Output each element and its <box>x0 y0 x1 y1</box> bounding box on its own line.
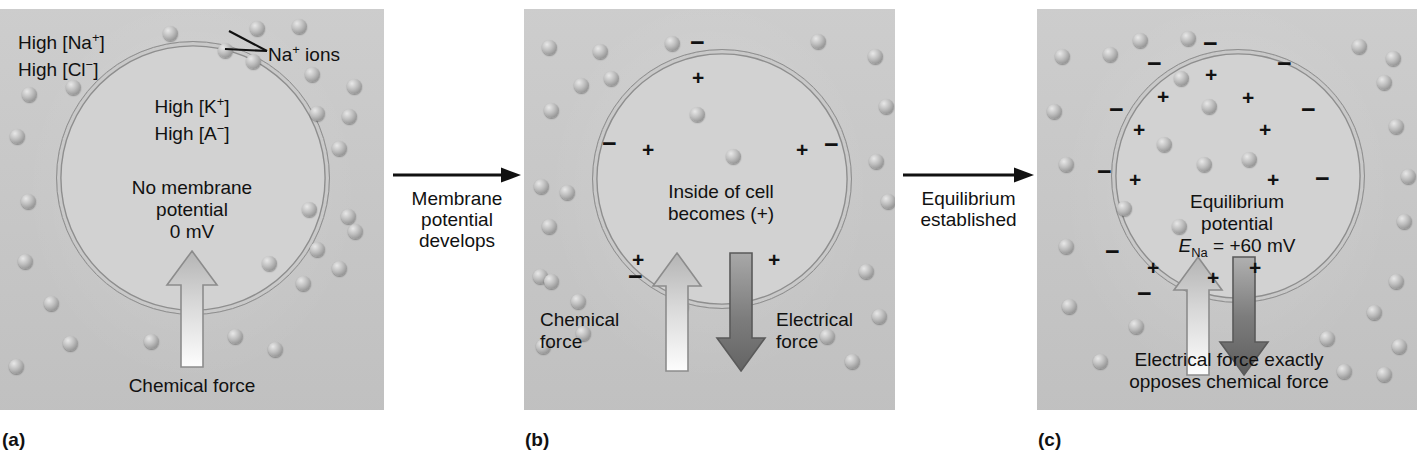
sodium-ion <box>542 40 557 55</box>
na-ion-leader-lines <box>215 27 305 72</box>
sodium-ion <box>544 103 559 118</box>
positive-charge-symbol: + <box>642 139 654 160</box>
sodium-ion <box>144 334 159 349</box>
sodium-ion <box>22 87 37 102</box>
sodium-ion <box>1157 137 1172 152</box>
panel-a-potential-text: No membrane potential 0 mV <box>92 177 292 243</box>
sodium-ion <box>869 154 884 169</box>
sodium-ion <box>1197 157 1212 172</box>
negative-charge-symbol: − <box>1147 51 1162 76</box>
sodium-ion <box>604 71 619 86</box>
chemical-force-arrow-a <box>160 249 224 369</box>
sodium-ion <box>881 194 895 209</box>
positive-charge-symbol: + <box>1267 169 1279 190</box>
positive-charge-symbol: + <box>1133 119 1145 140</box>
sodium-ion <box>1047 104 1062 119</box>
panel-a-inside-concentrations: High [K+]High [A−] <box>104 91 280 146</box>
sodium-ion <box>1386 51 1401 66</box>
transition-arrow-2: Equilibrium established <box>902 166 1035 230</box>
sodium-ion <box>332 261 347 276</box>
sodium-ion <box>310 106 325 121</box>
transition-1-line1: Membrane <box>392 188 522 209</box>
sodium-ion <box>1059 157 1074 172</box>
sodium-ion <box>560 185 575 200</box>
negative-charge-symbol: − <box>1097 159 1112 184</box>
sodium-ion <box>1181 31 1196 46</box>
sodium-ion <box>544 274 559 289</box>
sodium-ion <box>66 80 81 95</box>
sodium-ion <box>534 179 549 194</box>
sodium-ion <box>332 141 347 156</box>
sodium-ion <box>574 78 589 93</box>
transition-2-line1: Equilibrium <box>902 188 1035 209</box>
sodium-ion <box>296 276 311 291</box>
panel-c: Equilibrium potential ENa = +60 mV <box>1037 9 1417 410</box>
negative-charge-symbol: − <box>602 131 617 156</box>
panel-caption-b: (b) <box>525 429 549 451</box>
negative-charge-symbol: − <box>824 132 839 157</box>
sodium-ion <box>1062 299 1077 314</box>
sodium-ion <box>1367 305 1382 320</box>
sodium-ion <box>268 342 283 357</box>
sodium-ion <box>690 107 705 122</box>
positive-charge-symbol: + <box>796 139 808 160</box>
positive-charge-symbol: + <box>1259 119 1271 140</box>
sodium-ion <box>879 99 894 114</box>
negative-charge-symbol: − <box>1137 281 1152 306</box>
chemical-force-arrow-b <box>646 251 708 373</box>
sodium-ion <box>302 202 317 217</box>
sodium-ion <box>63 336 78 351</box>
sodium-ion <box>542 219 557 234</box>
sodium-ion <box>1202 99 1217 114</box>
sodium-ion <box>571 294 586 309</box>
membrane-potential-figure: High [Na+]High [Cl−] High [K+]High [A−] … <box>0 0 1417 461</box>
electrical-force-arrow-b <box>710 251 772 373</box>
transition-1-line2: potential <box>392 209 522 230</box>
panel-b-center-text: Inside of cell becomes (+) <box>616 181 826 225</box>
sodium-ion <box>1397 214 1412 229</box>
sodium-ion <box>21 194 36 209</box>
positive-charge-symbol: + <box>632 249 644 270</box>
negative-charge-symbol: − <box>1277 51 1292 76</box>
sodium-ion <box>1103 47 1118 62</box>
positive-charge-symbol: + <box>1242 87 1254 108</box>
sodium-ion <box>1133 33 1148 48</box>
negative-charge-symbol: − <box>690 30 705 55</box>
sodium-ion <box>305 67 320 82</box>
negative-charge-symbol: − <box>1315 166 1330 191</box>
transition-1-line3: develops <box>392 230 522 251</box>
sodium-ion <box>1055 49 1070 64</box>
panel-a-outside-concentrations: High [Na+]High [Cl−] <box>18 27 105 82</box>
sodium-ion <box>1401 169 1416 184</box>
panel-caption-a: (a) <box>2 429 25 451</box>
sodium-ion <box>868 49 883 64</box>
negative-charge-symbol: − <box>1203 31 1218 56</box>
panel-c-bottom-text: Electrical force exactly opposes chemica… <box>1061 349 1397 393</box>
panel-b-chemical-force-label: Chemical force <box>540 309 644 353</box>
positive-charge-symbol: + <box>1205 64 1217 85</box>
sodium-ion <box>341 209 356 224</box>
negative-charge-symbol: − <box>1301 97 1316 122</box>
positive-charge-symbol: + <box>768 249 780 270</box>
sodium-ion <box>811 34 826 49</box>
panel-a-force-label: Chemical force <box>66 375 318 397</box>
negative-charge-symbol: − <box>1105 239 1120 264</box>
panel-c-equilibrium-text: Equilibrium potential ENa = +60 mV <box>1125 191 1349 264</box>
sodium-ion <box>1389 274 1404 289</box>
sodium-ion <box>1242 152 1257 167</box>
sodium-ion <box>845 354 860 369</box>
panel-b-electrical-force-label: Electrical force <box>776 309 886 353</box>
panel-b: Inside of cell becomes (+) Chemical forc… <box>524 9 895 410</box>
sodium-ion <box>9 359 24 374</box>
sodium-ion <box>726 149 741 164</box>
negative-charge-symbol: − <box>1109 97 1124 122</box>
sodium-ion <box>1377 75 1392 90</box>
arrow-right-icon-1 <box>393 166 521 184</box>
sodium-ion <box>1059 239 1074 254</box>
positive-charge-symbol: + <box>692 67 704 88</box>
sodium-ion <box>163 26 178 41</box>
sodium-ion <box>1129 319 1144 334</box>
panel-a: High [Na+]High [Cl−] High [K+]High [A−] … <box>0 9 384 410</box>
positive-charge-symbol: + <box>1129 169 1141 190</box>
sodium-ion <box>665 36 680 51</box>
